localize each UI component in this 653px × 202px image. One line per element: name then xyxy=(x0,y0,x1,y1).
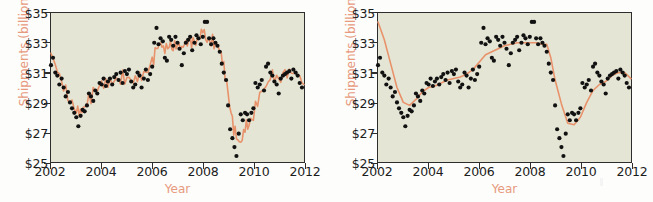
data-point xyxy=(169,38,173,42)
data-point xyxy=(277,91,281,95)
scatter-points-left xyxy=(49,20,304,158)
data-point xyxy=(222,71,226,75)
data-point xyxy=(102,76,106,80)
data-point xyxy=(51,56,55,60)
data-point xyxy=(382,74,386,78)
data-point xyxy=(247,118,251,122)
data-point xyxy=(300,85,304,89)
data-point xyxy=(526,42,530,46)
data-point xyxy=(68,100,72,104)
data-point xyxy=(260,78,264,82)
data-point xyxy=(66,90,70,94)
y-tick-label-35-right: $35 xyxy=(331,8,375,21)
data-point xyxy=(538,36,542,40)
data-point xyxy=(614,69,618,73)
data-point xyxy=(220,62,224,66)
data-point xyxy=(496,38,500,42)
data-point xyxy=(262,88,266,92)
data-point xyxy=(125,72,129,76)
data-point xyxy=(553,103,557,107)
data-point xyxy=(64,94,68,98)
x-tick-label-2012-right: 2012 xyxy=(610,166,653,179)
data-point xyxy=(580,81,584,85)
data-point xyxy=(578,106,582,110)
data-point xyxy=(258,82,262,86)
data-point xyxy=(475,72,479,76)
data-point xyxy=(593,62,597,66)
data-point xyxy=(448,81,452,85)
data-point xyxy=(79,114,83,118)
y-tick-label-29-left: $29 xyxy=(4,98,48,111)
data-point xyxy=(427,82,431,86)
data-point xyxy=(127,68,131,72)
data-point xyxy=(133,82,137,86)
data-point xyxy=(289,76,293,80)
scatter-points-right xyxy=(376,20,631,158)
x-tick-label-2006-right: 2006 xyxy=(457,166,501,179)
data-point xyxy=(604,91,608,95)
data-point xyxy=(150,65,154,69)
data-point xyxy=(152,41,156,45)
data-point xyxy=(519,41,523,45)
data-point xyxy=(89,94,93,98)
data-point xyxy=(623,74,627,78)
data-point xyxy=(568,118,572,122)
data-point xyxy=(589,88,593,92)
data-point xyxy=(384,82,388,86)
data-point xyxy=(201,35,205,39)
data-point xyxy=(287,69,291,73)
data-point xyxy=(542,44,546,48)
data-point xyxy=(298,81,302,85)
data-point xyxy=(492,59,496,63)
data-point xyxy=(456,79,460,83)
data-point xyxy=(502,41,506,45)
data-point xyxy=(473,78,477,82)
data-point xyxy=(237,132,241,136)
data-point xyxy=(545,50,549,54)
data-point xyxy=(156,42,160,46)
data-point xyxy=(144,68,148,72)
data-point xyxy=(182,51,186,55)
data-point xyxy=(536,42,540,46)
data-point xyxy=(576,111,580,115)
data-point xyxy=(146,78,150,82)
data-point xyxy=(532,20,536,24)
data-point xyxy=(72,111,76,115)
data-point xyxy=(460,82,464,86)
data-point xyxy=(211,36,215,40)
data-point xyxy=(249,111,253,115)
data-point xyxy=(479,41,483,45)
data-point xyxy=(85,103,89,107)
data-point xyxy=(142,76,146,80)
data-point xyxy=(205,20,209,24)
trend-line-left xyxy=(51,29,304,142)
trend-line-right xyxy=(378,22,631,125)
data-point xyxy=(597,74,601,78)
chart-panel-right: Shipments (billion, SA) $25 $27 $29 $31 … xyxy=(327,0,653,202)
data-point xyxy=(91,99,95,103)
data-point xyxy=(188,35,192,39)
data-point xyxy=(296,74,300,78)
data-point xyxy=(395,100,399,104)
data-point xyxy=(587,78,591,82)
data-point xyxy=(192,41,196,45)
data-point xyxy=(454,68,458,72)
data-point xyxy=(108,76,112,80)
data-point xyxy=(253,81,257,85)
data-point xyxy=(226,103,230,107)
data-point xyxy=(515,35,519,39)
y-tick-label-35-left: $35 xyxy=(4,8,48,21)
data-point xyxy=(378,56,382,60)
data-point xyxy=(466,85,470,89)
data-point xyxy=(387,76,391,80)
data-point xyxy=(564,132,568,136)
data-point xyxy=(137,74,141,78)
data-point xyxy=(517,48,521,52)
data-point xyxy=(175,41,179,45)
scan-artifact-mark xyxy=(600,178,603,186)
data-point xyxy=(171,44,175,48)
data-point xyxy=(523,36,527,40)
x-tick-label-2006-left: 2006 xyxy=(130,166,174,179)
data-point xyxy=(509,51,513,55)
data-point xyxy=(110,82,114,86)
